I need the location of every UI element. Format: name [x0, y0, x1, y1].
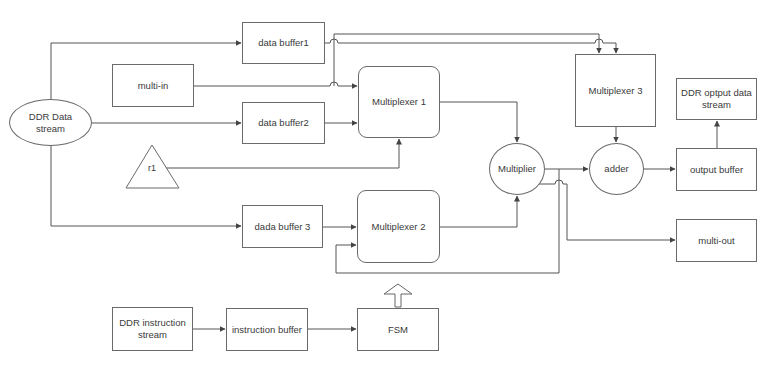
- adder-label: adder: [604, 163, 628, 175]
- adder-node: adder: [589, 143, 644, 195]
- edge-mux2-to-multiplier: [440, 196, 517, 227]
- ddr-data-stream-label: DDR Data stream: [14, 111, 87, 135]
- multiplexer1-node: Multiplexer 1: [358, 66, 440, 138]
- multiplier-label: Multiplier: [498, 163, 536, 175]
- multi-in-label: multi-in: [138, 80, 169, 92]
- r1-label: r1: [142, 163, 162, 173]
- data-buffer2-node: data buffer2: [242, 102, 325, 144]
- multiplexer3-label: Multiplexer 3: [589, 85, 643, 97]
- ddr-data-stream-node: DDR Data stream: [9, 99, 92, 146]
- multi-out-label: multi-out: [698, 235, 734, 247]
- multi-in-node: multi-in: [112, 64, 194, 107]
- ddr-instruction-stream-label: DDR instruction stream: [117, 317, 188, 341]
- ddr-output-stream-node: DDR optput data stream: [676, 78, 757, 120]
- instruction-buffer-label: instruction buffer: [232, 324, 302, 336]
- multiplier-node: Multiplier: [489, 143, 545, 195]
- multiplexer2-node: Multiplexer 2: [357, 190, 440, 263]
- edge-multiin-to-mux1: [194, 82, 357, 86]
- ddr-instruction-stream-node: DDR instruction stream: [112, 307, 193, 351]
- fsm-label: FSM: [388, 324, 408, 336]
- multiplexer2-label: Multiplexer 2: [372, 221, 426, 233]
- edge-mux1-to-multiplier: [440, 102, 517, 142]
- output-buffer-label: output buffer: [690, 164, 743, 176]
- dada-buffer3-label: dada buffer 3: [255, 221, 311, 233]
- hollow-up-arrow-icon: [384, 284, 412, 307]
- multiplexer1-label: Multiplexer 1: [372, 96, 426, 108]
- data-buffer2-label: data buffer2: [258, 117, 309, 129]
- ddr-output-stream-label: DDR optput data stream: [681, 87, 752, 111]
- multiplexer3-node: Multiplexer 3: [575, 54, 656, 127]
- edge-buffer1-to-mux3: [325, 39, 616, 53]
- block-diagram: r1 DDR Data stream data buffer1 multi-in…: [0, 0, 774, 372]
- data-buffer1-node: data buffer1: [242, 22, 325, 64]
- multi-out-node: multi-out: [676, 219, 757, 262]
- fsm-node: FSM: [357, 308, 439, 351]
- data-buffer1-label: data buffer1: [258, 37, 309, 49]
- instruction-buffer-node: instruction buffer: [226, 308, 308, 351]
- dada-buffer3-node: dada buffer 3: [242, 205, 323, 248]
- output-buffer-node: output buffer: [676, 148, 757, 191]
